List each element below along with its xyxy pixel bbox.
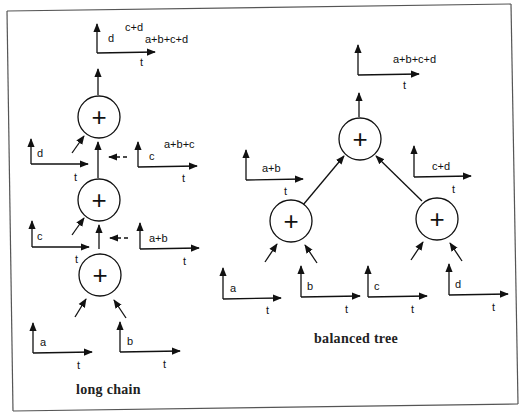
plot-axis-t: t (140, 56, 143, 68)
input-arrow (265, 244, 277, 262)
plot-label: d (455, 278, 461, 290)
input-plot-a: a t (223, 268, 281, 316)
input-arrow (305, 245, 317, 263)
balanced-tree-output-plot: a+b+c+d t (358, 45, 436, 91)
plot-axis-t: t (492, 301, 495, 313)
plot-axis-t: t (75, 253, 78, 265)
plot-axis-t: t (183, 255, 186, 267)
plus-icon: + (92, 260, 107, 290)
plot-axis-t: t (284, 185, 287, 197)
plot-label: b (307, 280, 313, 292)
plot-label-a-b-c-d: a+b+c+d (393, 53, 436, 65)
tree-edge (303, 156, 344, 205)
input-plot-d: d t (31, 139, 88, 183)
intermediate-plot-c-d: c+d t (414, 146, 471, 195)
plot-axis-t: t (345, 303, 348, 315)
intermediate-plot-a-b: a+b t (246, 150, 303, 197)
adder-node: + (78, 96, 120, 138)
adder-node: + (78, 179, 120, 221)
plot-label: a+b (149, 232, 168, 244)
adder-node: + (339, 118, 381, 160)
long-chain-caption: long chain (76, 382, 141, 397)
plot-axis-t: t (452, 183, 455, 195)
plot-label: a+b+c (164, 138, 195, 150)
plot-axis-t: t (77, 359, 80, 371)
input-arrow (72, 218, 84, 235)
plot-label-d: d (108, 32, 114, 44)
balanced-tree-diagram: a+b+c+d t + a+b t c+d t + (223, 45, 508, 346)
plus-icon: + (283, 206, 298, 236)
plot-axis-t: t (163, 358, 166, 370)
plot-label: c (374, 280, 380, 292)
plot-label-a-b-c-d: a+b+c+d (145, 33, 188, 45)
long-chain-diagram: d c+d a+b+c+d t + d t c a+b+c (31, 21, 199, 397)
plot-label: d (37, 147, 43, 159)
plot-label: a (40, 336, 47, 348)
input-arrow (75, 299, 86, 317)
balanced-tree-caption: balanced tree (314, 331, 398, 346)
intermediate-plot-a-b: a+b t (140, 223, 199, 267)
plot-axis-t: t (403, 79, 406, 91)
tree-edge (376, 156, 422, 201)
input-plot-c: c t (32, 221, 89, 265)
plot-label: a+b (262, 162, 281, 174)
input-arrow (72, 136, 84, 153)
plus-icon: + (352, 124, 367, 154)
input-arrow (114, 300, 126, 318)
plot-label: a (230, 282, 237, 294)
diagram-canvas: d c+d a+b+c+d t + d t c a+b+c (0, 0, 521, 418)
plot-axis-t: t (411, 303, 414, 315)
input-arrow (450, 243, 462, 261)
plot-label-c-plus-d: c+d (125, 21, 143, 33)
plot-label: b (127, 335, 133, 347)
input-plot-b: b t (120, 322, 180, 370)
intermediate-plot-a-b-c: c a+b+c t (138, 138, 197, 184)
adder-node: + (416, 198, 458, 240)
input-plot-a: a t (33, 323, 92, 371)
plot-axis-t: t (74, 171, 77, 183)
input-plot-c: c t (368, 266, 427, 315)
adder-node: + (270, 200, 312, 242)
adder-node: + (79, 254, 121, 296)
plot-label: c (37, 230, 43, 242)
plot-label: c+d (432, 160, 450, 172)
plus-icon: + (429, 204, 444, 234)
plus-icon: + (91, 102, 106, 132)
input-plot-d: d t (449, 264, 508, 313)
plus-icon: + (91, 185, 106, 215)
plot-label: c (149, 150, 155, 162)
long-chain-output-plot: d c+d a+b+c+d t (97, 21, 188, 68)
input-arrow (411, 242, 423, 260)
plot-axis-t: t (182, 172, 185, 184)
input-plot-b: b t (301, 266, 360, 315)
plot-axis-t: t (266, 304, 269, 316)
